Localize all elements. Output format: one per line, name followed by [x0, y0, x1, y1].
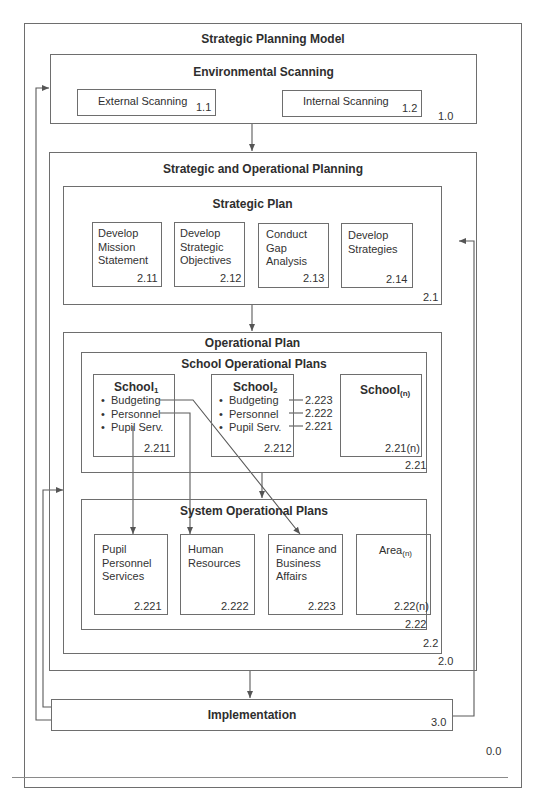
develop-strategic-objectives-number: 2.12 [220, 272, 241, 284]
school-operational-plans-number: 2.21 [405, 459, 426, 471]
develop-strategies-number: 2.14 [386, 273, 407, 285]
area-n-subscript: (n) [402, 549, 412, 558]
school-2-ref-pupil-serv: 2.221 [305, 420, 333, 432]
school-2-bullet-pupil-serv: Pupil Serv. [219, 421, 281, 435]
school-1-bullet-list: Budgeting Personnel Pupil Serv. [101, 394, 163, 435]
internal-scanning-number: 1.2 [402, 102, 417, 114]
school-1-bullet-personnel: Personnel [101, 408, 163, 422]
area-n-name: Area [379, 544, 402, 556]
pupil-personnel-services-number: 2.221 [134, 600, 162, 612]
finance-business-affairs-label: Finance and Business Affairs [276, 543, 338, 584]
operational-plan-title: Operational Plan [63, 337, 442, 350]
develop-mission-statement-number: 2.11 [137, 272, 158, 284]
school-2-name: School [233, 380, 273, 394]
conduct-gap-analysis-number: 2.13 [303, 272, 324, 284]
area-n-title: Area(n) [379, 544, 412, 560]
school-2-number: 2.212 [264, 442, 292, 454]
implementation-number: 3.0 [431, 716, 446, 728]
school-2-bullet-personnel: Personnel [219, 408, 281, 422]
diagram-title: Strategic Planning Model [24, 33, 522, 46]
external-scanning-number: 1.1 [196, 101, 211, 113]
school-2-bullet-list: Budgeting Personnel Pupil Serv. [219, 394, 281, 435]
outer-number: 0.0 [486, 745, 501, 757]
internal-scanning-label: Internal Scanning [303, 95, 389, 108]
strategic-operational-planning-title: Strategic and Operational Planning [49, 163, 477, 176]
area-n-number: 2.22(n) [394, 600, 429, 612]
strategic-plan-number: 2.1 [423, 291, 438, 303]
school-n-name: School [360, 383, 400, 397]
human-resources-label: Human Resources [188, 543, 248, 570]
school-n-title: School(n) [360, 384, 410, 400]
school-1-name: School [114, 380, 154, 394]
school-2-bullet-budgeting: Budgeting [219, 394, 281, 408]
environmental-scanning-title: Environmental Scanning [50, 66, 477, 79]
external-scanning-label: External Scanning [98, 95, 187, 108]
strategic-plan-title: Strategic Plan [63, 198, 442, 211]
operational-plan-number: 2.2 [423, 637, 438, 649]
implementation-title: Implementation [51, 709, 453, 722]
school-1-bullet-pupil-serv: Pupil Serv. [101, 421, 163, 435]
develop-mission-statement-label: Develop Mission Statement [98, 227, 146, 268]
page-bottom-rule [12, 777, 508, 778]
strategic-operational-planning-number: 2.0 [438, 655, 453, 667]
pupil-personnel-services-label: Pupil Personnel Services [102, 543, 158, 584]
conduct-gap-analysis-label: Conduct Gap Analysis [266, 228, 306, 269]
develop-strategic-objectives-label: Develop Strategic Objectives [180, 227, 240, 268]
system-operational-plans-title: System Operational Plans [81, 505, 427, 518]
school-1-bullet-budgeting: Budgeting [101, 394, 163, 408]
school-operational-plans-title: School Operational Plans [81, 358, 427, 371]
finance-business-affairs-number: 2.223 [308, 600, 336, 612]
school-1-number: 2.211 [144, 442, 171, 454]
school-n-subscript: (n) [400, 389, 410, 398]
human-resources-number: 2.222 [221, 600, 249, 612]
system-operational-plans-number: 2.22 [405, 618, 426, 630]
school-2-ref-personnel: 2.222 [305, 407, 333, 419]
environmental-scanning-number: 1.0 [438, 110, 453, 122]
school-2-ref-budgeting: 2.223 [305, 394, 333, 406]
develop-strategies-label: Develop Strategies [348, 229, 408, 256]
school-n-number: 2.21(n) [385, 442, 420, 454]
